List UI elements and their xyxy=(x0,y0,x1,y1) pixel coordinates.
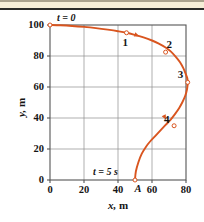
tick-marks xyxy=(47,25,186,183)
x-tick-label-60: 60 xyxy=(147,185,158,196)
x-axis-title-var: x, xyxy=(108,199,116,211)
y-axis-title-var: y, xyxy=(15,109,27,116)
annotation-start-time: t = 0 xyxy=(57,13,75,23)
y-tick-label-100: 100 xyxy=(28,20,44,31)
x-axis-title-unit: m xyxy=(119,199,128,211)
y-tick-label-60: 60 xyxy=(34,82,45,93)
trajectory-figure: 0 20 40 60 80 100 0 20 40 60 80 x, m y, … xyxy=(0,0,204,222)
x-axis-title: x, m xyxy=(108,200,128,211)
annotation-point-a: A xyxy=(135,184,142,195)
point-label-4: 4 xyxy=(164,114,170,125)
y-tick-label-80: 80 xyxy=(34,51,45,62)
x-tick-label-40: 40 xyxy=(113,185,124,196)
point-label-3: 3 xyxy=(178,69,184,80)
annotation-end-time: t = 5 s xyxy=(93,167,118,177)
y-tick-label-20: 20 xyxy=(34,144,45,155)
x-tick-label-80: 80 xyxy=(181,185,192,196)
point-label-2: 2 xyxy=(167,39,173,50)
point-label-1: 1 xyxy=(123,37,129,48)
y-axis-title-unit: m xyxy=(15,97,27,106)
plot-canvas xyxy=(0,0,204,222)
x-tick-label-20: 20 xyxy=(79,185,90,196)
y-axis-title: y, m xyxy=(16,97,27,116)
x-tick-label-0: 0 xyxy=(47,185,52,196)
y-tick-label-0: 0 xyxy=(39,175,44,186)
y-tick-label-40: 40 xyxy=(34,113,45,124)
